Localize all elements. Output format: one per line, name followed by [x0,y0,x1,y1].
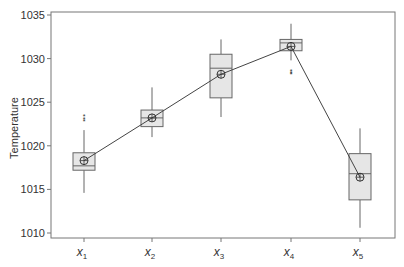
y-tick-label: 1025 [21,96,45,108]
x-tick-label: x4 [283,245,295,261]
x-tick-label: x2 [144,245,156,261]
box-x2 [141,87,163,137]
y-axis-title: Temperature [8,97,20,159]
y-tick-label: 1030 [21,53,45,65]
x-tick-label: x1 [76,245,88,261]
y-tick-label: 1010 [21,227,45,239]
x-axis: x1x2x3x4x5 [76,238,364,261]
outlier-marker: * [290,68,293,75]
boxplot-chart: 101010151020102510301035 x1x2x3x4x5 ****… [0,0,404,267]
box-x1: *** [73,113,95,193]
box-series: ****** [73,24,371,228]
plot-area-border [51,12,395,238]
x-tick-label: x5 [352,245,364,261]
plot-frame [51,12,395,238]
y-tick-label: 1015 [21,183,45,195]
y-tick-label: 1035 [21,9,45,21]
box-x4: *** [280,24,302,79]
y-axis: 101010151020102510301035 [21,9,51,239]
y-tick-label: 1020 [21,140,45,152]
outlier-marker: * [83,113,86,120]
x-tick-label: x3 [213,245,225,261]
